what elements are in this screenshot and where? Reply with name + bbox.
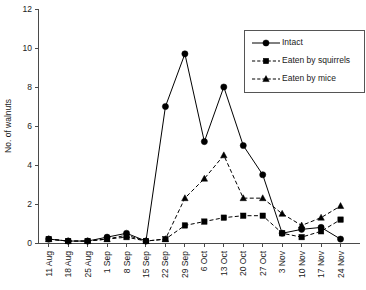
- y-tick-label: 0: [27, 238, 32, 248]
- chart-legend: IntactEaten by squirrelsEaten by mice: [244, 30, 364, 92]
- x-tick-label: 24 Nov: [336, 250, 346, 278]
- y-tick-label: 12: [23, 4, 33, 14]
- y-tick-label: 4: [27, 160, 32, 170]
- data-point: [299, 234, 304, 239]
- data-point: [279, 231, 284, 236]
- data-point: [318, 214, 324, 220]
- y-axis: 024681012No. of walnuts: [3, 4, 38, 248]
- data-point: [298, 222, 304, 228]
- data-point: [182, 223, 187, 228]
- x-tick-label: 11 Aug: [44, 251, 54, 277]
- x-tick-label: 22 Sep: [160, 251, 170, 278]
- legend-label: Intact: [282, 37, 303, 47]
- data-point: [221, 215, 226, 220]
- y-axis-title: No. of walnuts: [3, 99, 13, 153]
- x-tick-label: 27 Oct: [258, 250, 268, 276]
- data-point: [337, 236, 343, 242]
- y-tick-label: 6: [27, 121, 32, 131]
- x-tick-label: 20 Oct: [238, 250, 248, 276]
- legend-label: Eaten by mice: [282, 73, 336, 83]
- data-point: [182, 51, 188, 57]
- x-tick-label: 1 Sep: [102, 251, 112, 273]
- x-tick-label: 6 Oct: [199, 250, 209, 271]
- data-point: [338, 217, 343, 222]
- legend-sample-marker: [263, 40, 269, 46]
- data-point: [202, 219, 207, 224]
- legend-label: Eaten by squirrels: [282, 55, 350, 65]
- x-tick-label: 18 Aug: [63, 251, 73, 278]
- data-point: [221, 152, 227, 158]
- data-point: [240, 142, 246, 148]
- data-point: [221, 84, 227, 90]
- data-point: [337, 203, 343, 209]
- data-point: [259, 195, 265, 201]
- data-point: [318, 229, 323, 234]
- data-point: [201, 139, 207, 145]
- series-line: [49, 155, 341, 241]
- x-tick-label: 17 Nov: [316, 250, 326, 278]
- x-tick-label: 10 Nov: [297, 250, 307, 278]
- x-tick-label: 3 Nov: [277, 250, 287, 273]
- x-tick-label: 8 Sep: [122, 251, 132, 273]
- x-axis: 11 Aug18 Aug25 Aug1 Sep8 Sep15 Sep22 Sep…: [38, 243, 360, 278]
- walnut-fate-line-chart: 024681012No. of walnuts 11 Aug18 Aug25 A…: [0, 0, 366, 290]
- y-tick-label: 10: [23, 43, 33, 53]
- data-point: [279, 210, 285, 216]
- y-tick-label: 2: [27, 199, 32, 209]
- data-point: [241, 213, 246, 218]
- series-line: [49, 216, 341, 241]
- data-point: [162, 103, 168, 109]
- chart-canvas: 024681012No. of walnuts 11 Aug18 Aug25 A…: [0, 0, 366, 290]
- x-tick-label: 29 Sep: [180, 251, 190, 278]
- x-tick-label: 13 Oct: [219, 250, 229, 276]
- data-point: [260, 213, 265, 218]
- y-tick-label: 8: [27, 82, 32, 92]
- x-tick-label: 15 Sep: [141, 251, 151, 278]
- x-tick-label: 25 Aug: [83, 251, 93, 278]
- data-point: [260, 172, 266, 178]
- legend-sample-marker: [263, 58, 268, 63]
